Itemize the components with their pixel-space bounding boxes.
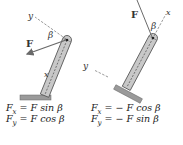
right-x-label: x — [166, 8, 171, 17]
right-equation-fy: Fy = − F sin β — [91, 113, 159, 129]
right-diagram: F β x y — [82, 0, 171, 103]
fx-lhs: F — [6, 102, 13, 113]
fy-lhs: F — [6, 113, 13, 124]
fx-rhs: = − F cos β — [105, 102, 161, 113]
fx-rhs: = F sin β — [20, 102, 63, 113]
left-x-label: x — [44, 70, 49, 79]
fy-rhs: = − F sin β — [105, 113, 159, 124]
fx-lhs: F — [91, 102, 98, 113]
right-bar — [122, 32, 159, 91]
left-diagram: y β F x — [20, 11, 73, 100]
left-beta-label: β — [47, 30, 53, 40]
right-force-line — [137, 0, 152, 37]
left-pin — [66, 39, 69, 42]
fy-sub: y — [98, 119, 102, 127]
left-y-label: y — [27, 11, 34, 21]
left-force-label: F — [26, 38, 33, 49]
right-y-label: y — [82, 61, 89, 71]
fy-lhs: F — [91, 113, 98, 124]
left-equation-fy: Fy = F cos β — [6, 113, 65, 129]
fy-rhs: = F cos β — [20, 113, 65, 124]
right-beta-label: β — [150, 21, 156, 31]
right-y-axis — [94, 70, 108, 77]
fy-sub: y — [13, 119, 17, 127]
right-pin — [152, 37, 155, 40]
right-force-label: F — [131, 9, 138, 20]
